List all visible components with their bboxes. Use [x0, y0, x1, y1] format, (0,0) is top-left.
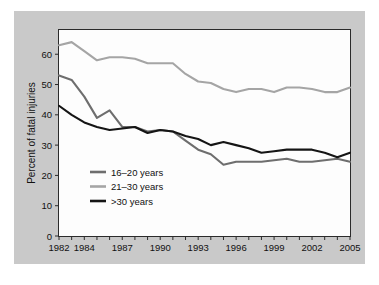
- legend-label: 21–30 years: [111, 181, 164, 192]
- y-axis-title: Percent of fatal injuries: [26, 82, 37, 184]
- x-tick-label: 1996: [226, 242, 247, 253]
- y-axis-tick-labels: 0102030405060: [41, 49, 52, 242]
- y-tick-label: 0: [47, 231, 52, 242]
- x-axis-ticks: [59, 236, 350, 240]
- line-chart: Percent of fatal injuries 0102030405060 …: [0, 0, 379, 285]
- y-tick-label: 60: [41, 49, 52, 60]
- y-tick-label: 10: [41, 200, 52, 211]
- x-tick-label: 1993: [188, 242, 209, 253]
- x-tick-label: 1990: [150, 242, 171, 253]
- x-tick-label: 1999: [264, 242, 285, 253]
- x-axis-tick-labels: 198219841987199019931996199920022005: [48, 242, 360, 253]
- chart-legend: 16–20 years21–30 years>30 years: [90, 167, 164, 207]
- y-tick-label: 50: [41, 79, 52, 90]
- x-tick-label: 2005: [339, 242, 360, 253]
- y-tick-label: 20: [41, 170, 52, 181]
- y-axis-ticks: [55, 54, 59, 236]
- y-tick-label: 40: [41, 109, 52, 120]
- x-tick-label: 1982: [48, 242, 69, 253]
- legend-label: >30 years: [111, 196, 153, 207]
- x-tick-label: 1987: [112, 242, 133, 253]
- y-tick-label: 30: [41, 140, 52, 151]
- legend-label: 16–20 years: [111, 167, 164, 178]
- x-tick-label: 1984: [74, 242, 95, 253]
- x-tick-label: 2002: [301, 242, 322, 253]
- series-line-21-30-years: [59, 42, 350, 92]
- data-series-lines: [59, 42, 350, 165]
- figure-canvas: Percent of fatal injuries 0102030405060 …: [0, 0, 379, 285]
